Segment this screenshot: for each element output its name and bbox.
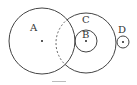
circle-diagram: A C B D bbox=[0, 0, 137, 85]
center-a bbox=[41, 40, 43, 42]
caption-mark bbox=[52, 81, 66, 82]
label-d: D bbox=[118, 24, 126, 35]
center-d bbox=[122, 41, 124, 43]
label-a: A bbox=[29, 22, 38, 33]
label-b: B bbox=[82, 29, 89, 40]
center-b bbox=[85, 40, 87, 42]
label-c: C bbox=[82, 14, 90, 25]
